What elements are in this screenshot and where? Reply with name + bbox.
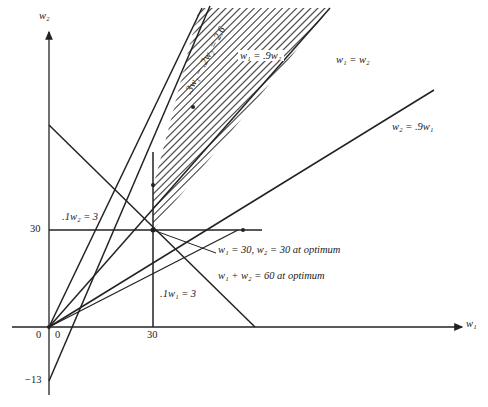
point-upper bbox=[191, 105, 195, 109]
origin-point bbox=[47, 325, 51, 329]
line-objective bbox=[49, 125, 255, 327]
tick-neg13: −13 bbox=[25, 374, 41, 385]
line-3w1-2w2 bbox=[49, 6, 210, 381]
tick-30-y: 30 bbox=[30, 223, 41, 234]
label-1w1-eq-3: .1w₁ = 3 bbox=[160, 288, 196, 299]
x-axis-label: w₁ bbox=[466, 318, 477, 329]
diagram-canvas bbox=[0, 0, 488, 407]
line-aux bbox=[49, 230, 238, 327]
label-objective: w₁ + w₂ = 60 at optimum bbox=[218, 270, 325, 281]
zero-label-x: 0 bbox=[55, 329, 60, 340]
zero-label-y: 0 bbox=[36, 329, 41, 340]
optimum-pointer bbox=[153, 230, 216, 253]
line-w2-eq-09w1 bbox=[49, 90, 434, 327]
label-1w2-eq-3: .1w₂ = 3 bbox=[62, 211, 98, 222]
optimum-point bbox=[151, 228, 156, 233]
point-hatch-corner bbox=[151, 183, 155, 187]
label-w1-09w2: w₁ = .9w₂ bbox=[238, 50, 284, 61]
label-w1-eq-w2: w₁ = w₂ bbox=[336, 54, 370, 65]
point-w2-09w1-cross bbox=[241, 228, 245, 232]
label-w2-09w1: w₂ = .9w₁ bbox=[392, 121, 434, 132]
y-axis-label: w₂ bbox=[39, 10, 50, 21]
tick-30-x: 30 bbox=[147, 329, 158, 340]
label-optimum-point: w₁ = 30, w₂ = 30 at optimum bbox=[218, 244, 340, 255]
